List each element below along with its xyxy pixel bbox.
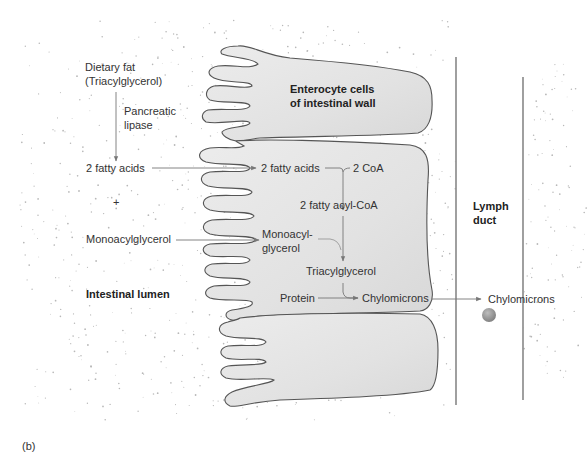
stipple-dot	[572, 110, 573, 111]
stipple-dot	[59, 163, 60, 164]
stipple-dot	[151, 379, 152, 380]
label-coa: 2 CoA	[353, 162, 384, 175]
stipple-dot	[89, 98, 90, 99]
stipple-dot	[282, 25, 283, 26]
stipple-dot	[435, 50, 436, 51]
stipple-dot	[79, 61, 80, 62]
stipple-dot	[440, 270, 441, 271]
stipple-dot	[447, 206, 449, 208]
stipple-dot	[431, 128, 433, 130]
stipple-dot	[443, 404, 444, 405]
stipple-dot	[25, 201, 27, 203]
stipple-dot	[220, 316, 221, 317]
stipple-dot	[132, 219, 133, 220]
stipple-dot	[33, 173, 34, 174]
stipple-dot	[34, 186, 35, 187]
stipple-dot	[244, 339, 246, 341]
stipple-dot	[224, 317, 225, 318]
stipple-dot	[80, 355, 82, 357]
stipple-dot	[191, 123, 192, 124]
stipple-dot	[540, 355, 541, 356]
label-cell-chylomicrons: Chylomicrons	[362, 292, 429, 305]
stipple-dot	[159, 170, 160, 171]
stipple-dot	[163, 143, 164, 144]
stipple-dot	[233, 20, 235, 22]
stipple-dot	[563, 377, 564, 378]
stipple-dot	[554, 88, 555, 89]
stipple-dot	[556, 184, 558, 186]
stipple-dot	[171, 392, 172, 393]
stipple-dot	[217, 400, 218, 401]
stipple-dot	[193, 331, 194, 332]
stipple-dot	[95, 198, 97, 200]
stipple-dot	[72, 118, 73, 119]
stipple-dot	[211, 64, 212, 65]
stipple-dot	[571, 89, 572, 90]
stipple-dot	[153, 212, 154, 213]
stipple-dot	[78, 264, 80, 266]
stipple-dot	[120, 125, 121, 126]
label-monoacyl-2: glycerol	[262, 242, 300, 255]
stipple-dot	[451, 274, 452, 275]
stipple-dot	[129, 252, 131, 254]
stipple-dot	[531, 184, 532, 185]
stipple-dot	[566, 146, 567, 147]
stipple-dot	[161, 157, 162, 158]
stipple-dot	[101, 36, 103, 38]
stipple-dot	[288, 52, 289, 53]
stipple-dot	[34, 233, 35, 234]
label-intestinal-lumen: Intestinal lumen	[86, 288, 170, 301]
stipple-dot	[60, 316, 62, 318]
stipple-dot	[554, 64, 555, 65]
stipple-dot	[174, 144, 176, 146]
stipple-dot	[441, 171, 442, 172]
stipple-dot	[242, 407, 243, 408]
stipple-dot	[145, 335, 146, 336]
stipple-dot	[545, 112, 546, 113]
panel-label: (b)	[22, 440, 35, 453]
stipple-dot	[441, 255, 443, 257]
stipple-dot	[50, 303, 51, 304]
stipple-dot	[551, 263, 552, 264]
stipple-dot	[89, 305, 91, 307]
stipple-dot	[416, 67, 417, 68]
stipple-dot	[545, 220, 546, 221]
stipple-dot	[242, 122, 244, 124]
stipple-dot	[157, 56, 158, 57]
stipple-dot	[76, 75, 78, 77]
stipple-dot	[245, 304, 246, 305]
stipple-dot	[56, 237, 58, 239]
stipple-dot	[55, 300, 57, 302]
stipple-dot	[542, 182, 544, 184]
stipple-dot	[434, 232, 436, 234]
stipple-dot	[537, 154, 538, 155]
stipple-dot	[155, 218, 157, 220]
stipple-dot	[223, 165, 225, 167]
stipple-dot	[435, 192, 436, 193]
stipple-dot	[193, 334, 195, 336]
stipple-dot	[39, 43, 41, 45]
stipple-dot	[175, 404, 176, 405]
stipple-dot	[438, 159, 439, 160]
stipple-dot	[125, 353, 126, 354]
stipple-dot	[153, 393, 155, 395]
stipple-dot	[122, 98, 123, 99]
stipple-dot	[115, 341, 116, 342]
stipple-dot	[548, 247, 549, 248]
stipple-dot	[551, 154, 553, 156]
stipple-dot	[210, 135, 212, 137]
stipple-dot	[164, 74, 166, 76]
stipple-dot	[534, 119, 535, 120]
stipple-dot	[183, 115, 184, 116]
stipple-dot	[121, 52, 122, 53]
stipple-dot	[70, 388, 72, 390]
stipple-dot	[193, 166, 194, 167]
stipple-dot	[545, 94, 547, 96]
stipple-dot	[133, 135, 134, 136]
stipple-dot	[431, 309, 432, 310]
stipple-dot	[537, 243, 539, 245]
stipple-dot	[563, 64, 564, 65]
stipple-dot	[433, 283, 434, 284]
label-cell-fatty-acids: 2 fatty acids	[261, 162, 320, 175]
stipple-dot	[138, 148, 140, 150]
